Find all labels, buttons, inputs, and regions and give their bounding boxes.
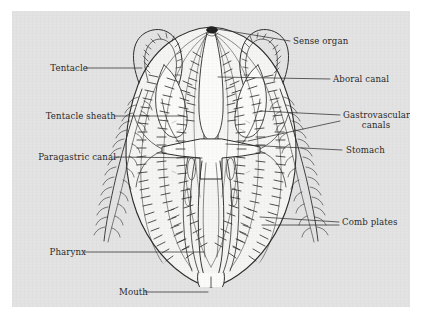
- label-tentacle: Tentacle: [26, 63, 88, 74]
- label-pharynx: Pharynx: [24, 247, 86, 258]
- label-tentacle-sheath: Tentacle sheath: [12, 111, 116, 122]
- label-comb-plates: Comb plates: [342, 217, 398, 228]
- label-mouth: Mouth: [94, 287, 148, 298]
- figure-page: Tentacle Tentacle sheath Paragastric can…: [0, 0, 434, 324]
- label-aboral-canal: Aboral canal: [333, 74, 389, 85]
- mouth: [198, 273, 225, 299]
- label-gastrovascular-canals: Gastrovascular: [343, 110, 410, 121]
- figure-panel: Tentacle Tentacle sheath Paragastric can…: [12, 11, 410, 307]
- label-sense-organ: Sense organ: [293, 36, 348, 47]
- label-gastrovascular-canals-line2: canals: [343, 120, 409, 131]
- label-stomach: Stomach: [346, 145, 385, 156]
- label-paragastric-canal: Paragastric canal: [12, 152, 116, 163]
